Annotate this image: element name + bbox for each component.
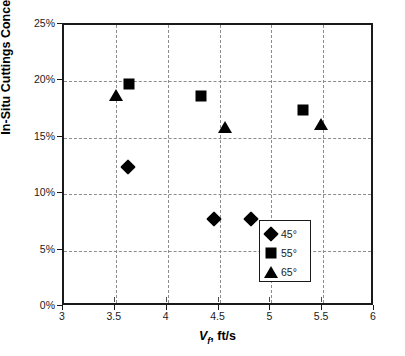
y-axis-tick <box>57 23 62 24</box>
gridline-horizontal <box>64 194 371 195</box>
x-axis-tick-inner <box>321 297 322 302</box>
y-axis-tick <box>57 79 62 80</box>
x-axis-units: , ft/s <box>210 329 236 343</box>
x-axis-tick-label: 4.5 <box>210 311 225 322</box>
data-point-square <box>124 78 135 89</box>
y-axis-tick-label: 10% <box>34 187 55 198</box>
data-point-square <box>195 91 206 102</box>
x-axis-tick-label: 3 <box>59 311 65 322</box>
legend: 45°55°65° <box>259 220 311 282</box>
x-axis-tick-inner <box>166 297 167 302</box>
y-axis-tick-label: 25% <box>34 18 55 29</box>
x-axis-tick-label: 5.5 <box>314 311 329 322</box>
data-point-square <box>298 104 309 115</box>
triangle-icon <box>264 266 277 279</box>
legend-item-label: 65° <box>281 267 297 278</box>
gridline-vertical <box>116 25 117 303</box>
data-point-triangle <box>314 118 328 130</box>
square-marker <box>265 248 276 259</box>
y-axis-tick <box>57 192 62 193</box>
y-axis-tick-label: 5% <box>40 243 55 254</box>
x-axis-title: Vf, ft/s <box>62 329 373 346</box>
x-axis-tick-label: 6 <box>370 311 376 322</box>
plot-area <box>62 23 373 305</box>
legend-item: 45° <box>264 227 297 241</box>
x-axis-tick-label: 3.5 <box>107 311 122 322</box>
diamond-icon <box>264 228 277 241</box>
y-axis-tick <box>57 249 62 250</box>
legend-item-label: 55° <box>281 248 297 259</box>
diamond-marker <box>263 226 279 242</box>
square-icon <box>264 247 277 260</box>
y-axis-tick-label: 0% <box>40 300 55 311</box>
gridline-horizontal <box>64 138 371 139</box>
data-point-triangle <box>218 121 232 133</box>
legend-item-label: 45° <box>281 229 297 240</box>
gridline-vertical <box>220 25 221 303</box>
gridline-vertical <box>168 25 169 303</box>
legend-item: 65° <box>264 265 297 279</box>
data-point-triangle <box>109 89 123 101</box>
chart-figure: In-Situ Cuttings Concentration 0%5%10%15… <box>0 0 405 356</box>
data-point-diamond <box>120 159 136 175</box>
data-point-diamond <box>243 211 259 227</box>
legend-item: 55° <box>264 246 297 260</box>
y-axis-title: In-Situ Cuttings Concentration <box>0 0 13 164</box>
x-axis-tick-label: 5 <box>266 311 272 322</box>
y-axis-tick <box>57 136 62 137</box>
triangle-marker <box>264 266 278 278</box>
gridline-horizontal <box>64 251 371 252</box>
gridline-vertical <box>323 25 324 303</box>
x-axis-tick-inner <box>114 297 115 302</box>
x-axis-tick-label: 4 <box>163 311 169 322</box>
x-axis-tick-inner <box>269 297 270 302</box>
y-axis-tick-label: 20% <box>34 74 55 85</box>
gridline-horizontal <box>64 81 371 82</box>
y-axis-tick-label: 15% <box>34 131 55 142</box>
x-axis-tick-inner <box>218 297 219 302</box>
